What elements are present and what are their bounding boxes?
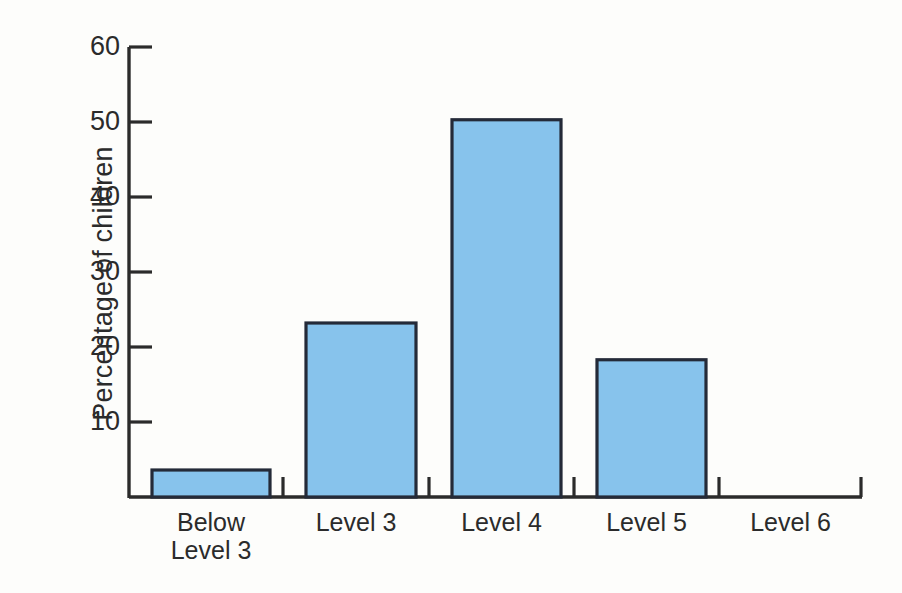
x-tick-label-level-5: Level 5	[574, 508, 719, 536]
bar-chart: Percentage of children 60 50 40 30 20 10	[0, 0, 902, 593]
x-tick-label-level-3: Level 3	[283, 508, 429, 536]
x-tick-label-level-6: Level 6	[719, 508, 862, 536]
x-tick-label-below-level-3: Below Level 3	[137, 508, 285, 564]
x-axis-tick-labels: Below Level 3 Level 3 Level 4 Level 5 Le…	[0, 0, 902, 593]
x-tick-label-level-4: Level 4	[429, 508, 574, 536]
